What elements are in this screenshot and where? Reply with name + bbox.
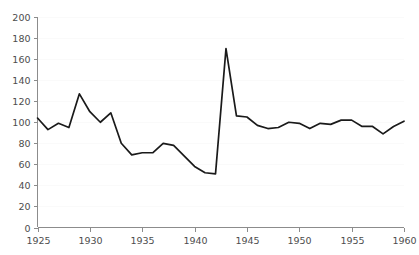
x-tick-label: 1930	[78, 235, 102, 246]
x-tick-label: 1960	[392, 235, 416, 246]
x-tick-label: 1950	[287, 235, 311, 246]
y-tick-label: 180	[12, 33, 30, 44]
y-tick-label: 20	[18, 201, 30, 212]
y-tick-label: 40	[18, 180, 30, 191]
y-tick-label: 60	[18, 159, 30, 170]
x-tick-label: 1945	[235, 235, 259, 246]
chart-container: 020406080100120140160180200 192519301935…	[0, 0, 419, 255]
y-tick-label: 200	[12, 12, 30, 23]
x-tick-label: 1955	[340, 235, 364, 246]
x-tick-label: 1925	[26, 235, 50, 246]
y-tick-label: 0	[24, 223, 30, 234]
y-tick-label: 100	[12, 117, 30, 128]
x-tick-label: 1935	[130, 235, 154, 246]
line-chart: 020406080100120140160180200 192519301935…	[0, 0, 419, 255]
y-tick-label: 140	[12, 75, 30, 86]
y-tick-label: 160	[12, 54, 30, 65]
y-tick-label: 80	[18, 138, 30, 149]
y-tick-label: 120	[12, 96, 30, 107]
x-tick-label: 1940	[183, 235, 207, 246]
